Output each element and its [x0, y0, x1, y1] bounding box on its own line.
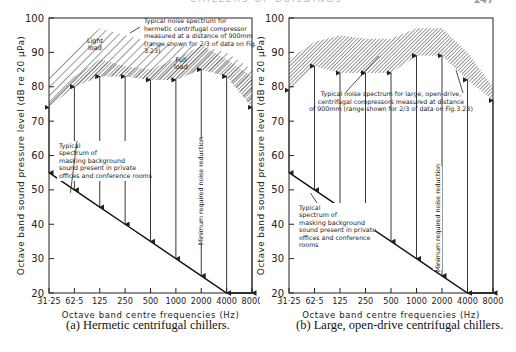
y-tick-label: 40: [31, 219, 44, 230]
y-tick-label: 60: [271, 150, 284, 161]
noise-note-text: of 900mm (range shown for 2/3 of data on…: [309, 105, 473, 113]
y-axis-label: Octave band sound pressure level (dB re …: [16, 36, 26, 276]
noise-note-text: measured at a distance of 900mm: [144, 32, 253, 39]
x-tick-label: 250: [117, 296, 133, 306]
min-reduction-label: Minimum required noise reduction: [434, 164, 442, 272]
light-load-label: load: [88, 44, 102, 52]
x-tick-label: 4000: [216, 296, 237, 306]
y-axis-label: Octave band sound pressure level (dB re …: [256, 36, 266, 276]
x-tick-label: 125: [92, 296, 108, 306]
x-tick-label: 31·25: [37, 296, 60, 306]
background-note-leader: [311, 193, 318, 203]
x-tick-label: 250: [358, 296, 374, 306]
x-tick-label: 4000: [457, 296, 478, 306]
caption-a: (a) Hermetic centrifugal chillers.: [66, 318, 230, 333]
x-tick-label: 500: [143, 296, 159, 306]
x-tick-label: 31·25: [277, 296, 300, 306]
x-tick-label: 500: [383, 296, 399, 306]
background-note-text: offices and conference: [299, 234, 371, 241]
noise-note-text: 3.23): [144, 47, 160, 54]
chart-hermetic-chillers: 203040506070809010031·2562·5125250500100…: [0, 0, 260, 352]
note-leader: [130, 27, 140, 33]
y-tick-label: 90: [271, 47, 284, 58]
x-tick-label: 62·5: [65, 296, 83, 306]
x-tick-label: 125: [332, 296, 348, 306]
y-tick-label: 70: [271, 116, 284, 127]
min-reduction-label: Minimum required noise reduction: [197, 137, 205, 245]
y-tick-label: 70: [31, 116, 44, 127]
full-load-label: load: [174, 63, 188, 71]
y-tick-label: 50: [31, 184, 44, 195]
y-tick-label: 100: [25, 13, 44, 24]
noise-note-text: (range shown for 2/3 of data on Fig.: [144, 40, 257, 48]
background-note-text: rooms: [299, 241, 319, 248]
x-tick-label: 8000: [483, 296, 504, 306]
y-tick-label: 30: [31, 253, 44, 264]
y-tick-label: 80: [31, 81, 44, 92]
y-tick-label: 50: [271, 184, 284, 195]
y-tick-label: 90: [31, 47, 44, 58]
y-tick-label: 40: [271, 219, 284, 230]
x-tick-label: 1000: [406, 296, 427, 306]
chart-open-drive-chillers: 203040506070809010031·2562·5125250500100…: [256, 0, 516, 352]
x-tick-label: 62·5: [305, 296, 323, 306]
y-tick-label: 30: [271, 253, 284, 264]
y-tick-label: 100: [265, 13, 284, 24]
y-tick-label: 80: [271, 81, 284, 92]
caption-b: (b) Large, open-drive centrifugal chille…: [296, 318, 503, 333]
x-tick-label: 1000: [165, 296, 186, 306]
x-tick-label: 2000: [191, 296, 212, 306]
x-tick-label: 2000: [432, 296, 453, 306]
y-tick-label: 60: [31, 150, 44, 161]
